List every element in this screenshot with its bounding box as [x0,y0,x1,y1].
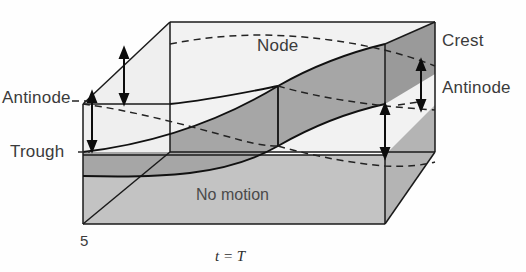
left-wall-upper-light [83,22,170,152]
label-antinode-right: Antinode [442,78,511,98]
label-no-motion: No motion [196,186,269,204]
standing-wave-diagram: Antinode Trough Node Crest Antinode No m… [0,0,526,272]
label-trough-left: Trough [10,142,64,162]
label-antinode-left: Antinode [2,88,71,108]
label-time-caption: t = T [215,248,245,265]
label-panel-index: 5 [80,232,88,249]
label-crest-right: Crest [442,31,484,51]
label-node-top: Node [257,36,298,56]
